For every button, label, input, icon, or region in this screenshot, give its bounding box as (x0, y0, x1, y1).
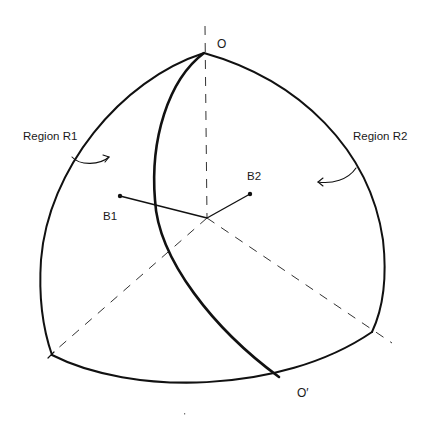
point-b1 (118, 194, 122, 198)
axis-to-right-corner (207, 218, 392, 343)
scan-speck (184, 413, 185, 415)
meridian-arc (154, 53, 279, 377)
point-b2 (248, 192, 252, 196)
segment-b1 (120, 196, 207, 218)
label-o: O (217, 38, 226, 50)
label-o-prime: O′ (297, 387, 309, 399)
edge-right (204, 53, 385, 332)
vectors (120, 194, 250, 218)
arrow-region-r2 (318, 168, 356, 186)
dashed-axes (56, 26, 392, 350)
label-region-r2: Region R2 (353, 131, 407, 143)
segment-b2 (207, 194, 250, 218)
label-region-r1: Region R1 (23, 131, 77, 143)
label-b1: B1 (103, 211, 117, 223)
label-b2: B2 (247, 171, 261, 183)
triangle-outline (40, 53, 384, 383)
spherical-regions-diagram: O O′ Region R1 Region R2 B1 B2 (0, 0, 433, 423)
axis-to-left-corner (56, 218, 207, 350)
edge-left (40, 53, 204, 355)
edge-bottom (52, 332, 372, 383)
